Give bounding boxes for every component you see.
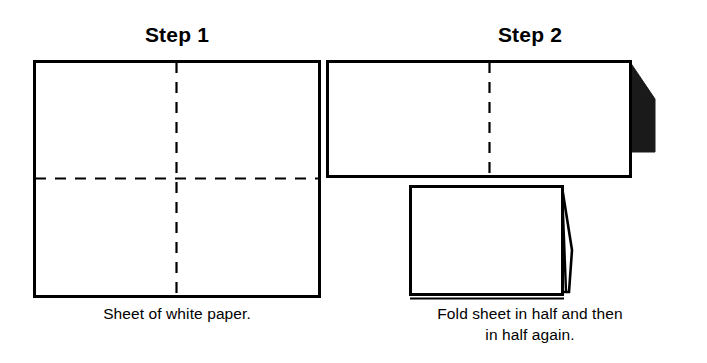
once-folded-dark-flap [630, 62, 655, 152]
step-1-panel: Step 1 Sheet of white paper. [0, 0, 354, 363]
step-1-caption-line-1: Sheet of white paper. [0, 303, 354, 324]
step-2-caption-line-2: in half again. [353, 324, 707, 345]
paper-folding-diagram: Step 1 Sheet of white paper. Step 2 [0, 0, 707, 363]
step-1-caption: Sheet of white paper. [0, 303, 354, 324]
twice-folded-sheet-outline [411, 187, 563, 295]
step-2-caption-line-1: Fold sheet in half and then [353, 303, 707, 324]
step-2-caption: Fold sheet in half and then in half agai… [353, 303, 707, 345]
step-2-panel: Step 2 Fold sheet in half and then in ha… [353, 0, 707, 363]
once-folded-sheet-outline [328, 62, 631, 177]
